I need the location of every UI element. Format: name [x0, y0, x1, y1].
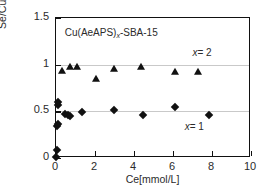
x-axis-tick-label: 6 [160, 161, 184, 172]
figure: Cu(AeAPS)x-SBA-15 x= 2x= 1 00.511.5 0246… [0, 0, 269, 196]
y-axis-tick-label: 1 [9, 58, 49, 69]
y-axis-tick [56, 65, 61, 66]
y-axis-tick-label: 0.5 [9, 104, 49, 115]
x-axis-tick-label: 0 [43, 161, 67, 172]
chart-title-tail: -SBA-15 [120, 27, 158, 38]
y-axis-title: Se/Cu[mol/mol] [0, 0, 8, 48]
data-point [92, 74, 100, 81]
x-axis-tick [173, 151, 174, 156]
y-axis-tick-label: 1.5 [9, 11, 49, 22]
annotation-value: = 1 [190, 121, 204, 132]
x-axis-tick [134, 151, 135, 156]
x-axis-tick [95, 151, 96, 156]
y-axis-tick [56, 18, 61, 19]
data-point [109, 106, 117, 114]
plot-area: Cu(AeAPS)x-SBA-15 x= 2x= 1 [55, 17, 250, 157]
data-point [137, 62, 145, 69]
chart-title: Cu(AeAPS)x-SBA-15 [65, 27, 158, 39]
data-point [110, 65, 118, 72]
x-axis-tick-label: 8 [199, 161, 223, 172]
data-point [52, 145, 60, 153]
series-annotation: x= 1 [185, 121, 204, 132]
x-axis-tick-label: 4 [121, 161, 145, 172]
chart-title-base: Cu(AeAPS) [65, 27, 117, 38]
data-point [171, 68, 179, 75]
data-point [194, 68, 202, 75]
data-point [78, 108, 86, 116]
data-point [58, 67, 66, 74]
x-axis-tick-label: 10 [238, 161, 262, 172]
data-point [171, 102, 179, 110]
x-axis-tick [212, 151, 213, 156]
data-point [73, 62, 81, 69]
x-axis-title: Ce[mmol/L] [55, 173, 250, 185]
gridline [56, 65, 249, 66]
x-axis-tick [251, 151, 252, 156]
series-annotation: x= 2 [193, 47, 212, 58]
annotation-value: = 2 [198, 47, 212, 58]
x-axis-tick-label: 2 [82, 161, 106, 172]
y-axis-tick [56, 111, 61, 112]
